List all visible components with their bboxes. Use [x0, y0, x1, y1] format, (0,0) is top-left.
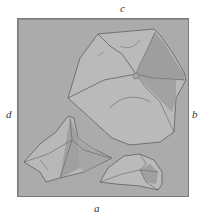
specimen-illustration	[0, 0, 210, 221]
large-fragment	[68, 29, 186, 145]
